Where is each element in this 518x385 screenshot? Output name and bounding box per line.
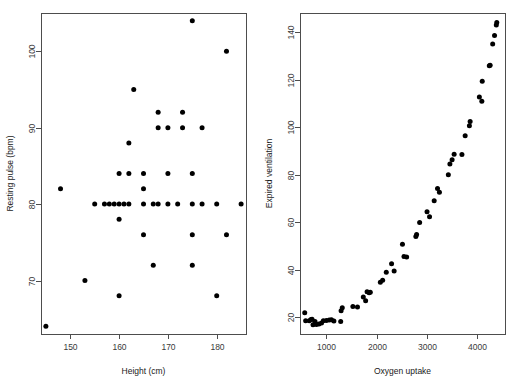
datapoint xyxy=(437,190,442,195)
datapoint xyxy=(432,198,437,203)
datapoint xyxy=(404,254,409,259)
datapoint xyxy=(331,318,336,323)
datapoint xyxy=(363,298,368,303)
datapoint xyxy=(340,305,345,310)
datapoint xyxy=(112,202,117,207)
datapoint xyxy=(447,161,452,166)
y-tick-label-1-5: 120 xyxy=(286,73,296,87)
datapoint xyxy=(190,171,195,176)
y-tick-label-1-1: 40 xyxy=(286,266,296,276)
panel-resting-pulse-vs-height: 150160170180708090100Height (cm)Resting … xyxy=(0,0,259,385)
y-axis-title: Resting pulse (bpm) xyxy=(5,135,15,211)
datapoint xyxy=(117,217,122,222)
x-axis-title: Oxygen uptake xyxy=(374,366,431,376)
datapoint xyxy=(480,79,485,84)
y-tick-label-1-6: 140 xyxy=(286,25,296,39)
datapoint xyxy=(141,186,146,191)
x-tick-label-0-3: 180 xyxy=(210,342,224,352)
left-plot-canvas: 150160170180708090100Height (cm)Resting … xyxy=(0,0,259,385)
scatterplot-figure: 150160170180708090100Height (cm)Resting … xyxy=(0,0,518,385)
datapoint xyxy=(214,293,219,298)
datapoint xyxy=(450,157,455,162)
datapoint xyxy=(141,202,146,207)
datapoint xyxy=(425,209,430,214)
datapoint xyxy=(200,125,205,130)
x-tick-label-1-3: 4000 xyxy=(468,342,487,352)
datapoint xyxy=(200,202,205,207)
datapoint xyxy=(141,171,146,176)
datapoint xyxy=(43,324,48,329)
datapoint xyxy=(190,202,195,207)
datapoint xyxy=(467,123,472,128)
y-tick-label-0-0: 70 xyxy=(27,277,37,287)
datapoint xyxy=(452,152,457,157)
datapoint xyxy=(126,171,131,176)
datapoint xyxy=(384,270,389,275)
datapoint xyxy=(126,140,131,145)
datapoint xyxy=(355,304,360,309)
y-tick-label-1-2: 60 xyxy=(286,218,296,228)
datapoint xyxy=(151,202,156,207)
x-tick-label-1-0: 1000 xyxy=(317,342,336,352)
datapoint xyxy=(190,232,195,237)
x-tick-label-1-1: 2000 xyxy=(368,342,387,352)
x-tick-label-1-2: 3000 xyxy=(418,342,437,352)
panel-expired-ventilation-vs-oxygen-uptake: 100020003000400020406080100120140Oxygen … xyxy=(259,0,518,385)
datapoint xyxy=(121,202,126,207)
datapoint xyxy=(463,133,468,138)
datapoint xyxy=(490,41,495,46)
datapoint xyxy=(165,202,170,207)
datapoint xyxy=(156,125,161,130)
datapoint xyxy=(389,261,394,266)
x-tick-label-0-1: 160 xyxy=(112,342,126,352)
datapoint xyxy=(156,202,161,207)
datapoint xyxy=(58,186,63,191)
datapoint xyxy=(214,202,219,207)
x-tick-label-0-0: 150 xyxy=(63,342,77,352)
x-axis-title: Height (cm) xyxy=(122,366,166,376)
y-tick-label-0-2: 90 xyxy=(27,124,37,134)
datapoint xyxy=(151,263,156,268)
y-tick-label-1-3: 80 xyxy=(286,171,296,181)
datapoint xyxy=(392,268,397,273)
datapoint xyxy=(446,172,451,177)
datapoint xyxy=(141,232,146,237)
datapoint xyxy=(417,220,422,225)
datapoint xyxy=(468,119,473,124)
y-tick-label-0-1: 80 xyxy=(27,200,37,210)
datapoint xyxy=(350,304,355,309)
x-tick-label-0-2: 170 xyxy=(161,342,175,352)
datapoint xyxy=(102,202,107,207)
datapoint xyxy=(180,125,185,130)
datapoint xyxy=(175,202,180,207)
plot-frame xyxy=(301,14,506,335)
datapoint xyxy=(117,293,122,298)
datapoint xyxy=(488,63,493,68)
datapoint xyxy=(414,232,419,237)
datapoint-group xyxy=(302,20,499,327)
datapoint xyxy=(368,290,373,295)
datapoint xyxy=(92,202,97,207)
y-tick-label-0-3: 100 xyxy=(27,44,37,58)
datapoint xyxy=(224,232,229,237)
datapoint xyxy=(239,202,244,207)
datapoint xyxy=(380,278,385,283)
datapoint xyxy=(224,49,229,54)
datapoint xyxy=(494,20,499,25)
datapoint xyxy=(302,310,307,315)
datapoint xyxy=(82,278,87,283)
datapoint xyxy=(117,171,122,176)
y-tick-label-1-0: 20 xyxy=(286,313,296,323)
datapoint xyxy=(117,202,122,207)
right-plot-canvas: 100020003000400020406080100120140Oxygen … xyxy=(259,0,518,385)
datapoint xyxy=(190,263,195,268)
y-tick-label-1-4: 100 xyxy=(286,120,296,134)
datapoint xyxy=(156,110,161,115)
datapoint xyxy=(131,87,136,92)
datapoint xyxy=(107,202,112,207)
datapoint xyxy=(338,319,343,324)
datapoint xyxy=(190,18,195,23)
datapoint xyxy=(400,242,405,247)
datapoint xyxy=(492,33,497,38)
datapoint xyxy=(459,152,464,157)
